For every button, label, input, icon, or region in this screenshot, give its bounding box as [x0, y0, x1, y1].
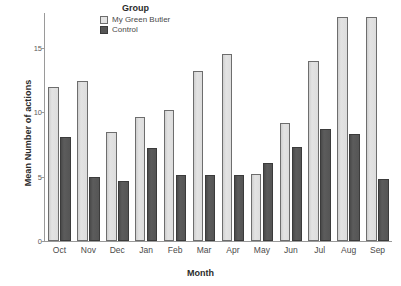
- x-tick-label: Oct: [53, 245, 66, 255]
- bar: [193, 71, 204, 241]
- legend: Group My Green ButlerControl: [100, 3, 240, 35]
- bar-group: [193, 13, 216, 241]
- bar: [349, 134, 360, 241]
- bar-group: [135, 13, 158, 241]
- x-tick-label: Dec: [110, 245, 125, 255]
- x-tick-label: Jul: [314, 245, 325, 255]
- plot-area: [44, 13, 392, 241]
- x-tick-label: Feb: [168, 245, 183, 255]
- light-gray-swatch: [100, 16, 108, 24]
- y-tick-label: 15: [0, 43, 42, 52]
- y-axis-title: Mean Number of actions: [23, 53, 33, 213]
- bar: [48, 87, 59, 241]
- y-tick-mark: [41, 241, 44, 242]
- bar-group: [222, 13, 245, 241]
- bar-group: [164, 13, 187, 241]
- x-tick-label: Aug: [341, 245, 356, 255]
- x-tick-label: Jan: [139, 245, 153, 255]
- bar: [77, 81, 88, 241]
- bar: [147, 148, 158, 241]
- bar: [280, 123, 291, 241]
- x-axis-title: Month: [0, 268, 401, 278]
- y-tick-label: 0: [0, 237, 42, 246]
- bar: [320, 129, 331, 241]
- bar-chart: Mean Number of actions Month 051015 OctN…: [0, 0, 401, 286]
- bar-group: [48, 13, 71, 241]
- bar-group: [280, 13, 303, 241]
- dark-gray-swatch: [100, 26, 108, 34]
- bar: [164, 110, 175, 241]
- bar: [89, 177, 100, 241]
- bar: [234, 175, 245, 241]
- bar: [135, 117, 146, 241]
- bar: [366, 17, 377, 241]
- legend-title: Group: [100, 3, 240, 13]
- x-tick-label: May: [254, 245, 270, 255]
- bar-group: [337, 13, 360, 241]
- x-tick-label: Apr: [226, 245, 239, 255]
- x-tick-label: Sep: [370, 245, 385, 255]
- bar: [106, 132, 117, 241]
- bar: [263, 163, 274, 242]
- bar-group: [308, 13, 331, 241]
- y-tick-label: 10: [0, 108, 42, 117]
- bar-group: [251, 13, 274, 241]
- bar: [292, 147, 303, 241]
- bar-group: [106, 13, 129, 241]
- y-tick-label: 5: [0, 172, 42, 181]
- x-axis-line: [44, 241, 392, 242]
- bar: [176, 175, 187, 241]
- bar: [60, 137, 71, 241]
- bar: [337, 17, 348, 241]
- x-tick-label: Nov: [81, 245, 96, 255]
- bar: [378, 179, 389, 241]
- legend-item-label: Control: [112, 25, 138, 34]
- legend-item-label: My Green Butler: [112, 15, 170, 24]
- legend-items: My Green ButlerControl: [100, 15, 240, 34]
- bar: [205, 175, 216, 241]
- x-tick-label: Jun: [284, 245, 298, 255]
- bar-group: [366, 13, 389, 241]
- bar: [222, 54, 233, 241]
- legend-item: Control: [100, 25, 240, 34]
- bar: [118, 181, 129, 241]
- bar: [308, 61, 319, 241]
- bar: [251, 174, 262, 241]
- x-tick-label: Mar: [197, 245, 212, 255]
- legend-item: My Green Butler: [100, 15, 240, 24]
- bar-group: [77, 13, 100, 241]
